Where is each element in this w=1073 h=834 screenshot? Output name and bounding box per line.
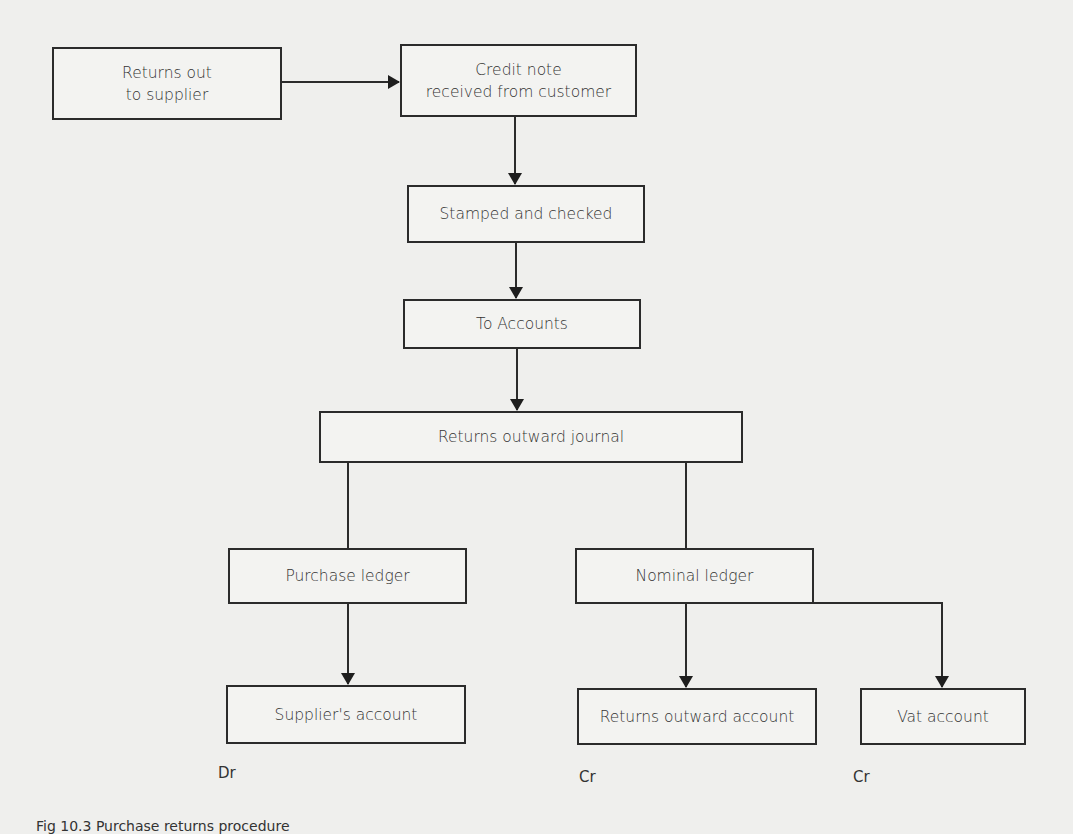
label-dr: Dr bbox=[218, 764, 236, 782]
node-to-accounts: To Accounts bbox=[403, 299, 641, 349]
figure-caption: Fig 10.3 Purchase returns procedure bbox=[36, 818, 290, 834]
node-returns-outward-account: Returns outward account bbox=[577, 688, 817, 745]
node-credit-note: Credit note received from customer bbox=[400, 44, 637, 117]
node-label: Returns out to supplier bbox=[122, 62, 212, 106]
arrow-nominal-to-vat bbox=[814, 603, 942, 687]
node-label: Returns outward journal bbox=[438, 426, 624, 448]
node-returns-outward-journal: Returns outward journal bbox=[319, 411, 743, 463]
node-label: Stamped and checked bbox=[440, 203, 613, 225]
node-returns-out: Returns out to supplier bbox=[52, 47, 282, 120]
node-label: Supplier's account bbox=[275, 704, 418, 726]
label-cr-returns: Cr bbox=[579, 768, 596, 786]
node-label: Nominal ledger bbox=[636, 565, 754, 587]
node-nominal-ledger: Nominal ledger bbox=[575, 548, 814, 604]
label-cr-vat: Cr bbox=[853, 768, 870, 786]
node-purchase-ledger: Purchase ledger bbox=[228, 548, 467, 604]
node-stamped-checked: Stamped and checked bbox=[407, 185, 645, 243]
node-label: Purchase ledger bbox=[285, 565, 409, 587]
node-label: Credit note received from customer bbox=[426, 59, 611, 103]
node-label: Returns outward account bbox=[600, 706, 795, 728]
node-suppliers-account: Supplier's account bbox=[226, 685, 466, 744]
node-label: Vat account bbox=[897, 706, 989, 728]
node-vat-account: Vat account bbox=[860, 688, 1026, 745]
node-label: To Accounts bbox=[476, 313, 568, 335]
